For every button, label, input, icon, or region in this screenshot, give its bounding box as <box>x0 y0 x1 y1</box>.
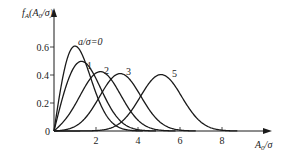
x-axis-arrow-icon <box>263 128 272 134</box>
x-tick-label: 2 <box>94 135 99 146</box>
curves <box>54 46 237 131</box>
origin-label: 0 <box>45 126 50 137</box>
x-tick-label: 8 <box>220 135 225 146</box>
curve-a-0 <box>54 46 143 131</box>
y-tick-label: 0.4 <box>37 70 50 81</box>
curve-label-2: 2 <box>104 65 109 76</box>
y-axis-label: fA(A0/σ) <box>22 7 54 20</box>
curve-label-5: 5 <box>172 68 177 79</box>
rice-distribution-chart: 246800.20.40.6 fA(A0/σ)A0/σa/σ=01235 <box>0 0 289 154</box>
y-tick-label: 0.6 <box>37 42 50 53</box>
curve-label-1: 1 <box>87 60 92 71</box>
curve-a-2 <box>54 72 176 131</box>
x-tick-label: 4 <box>136 135 141 146</box>
x-axis-label: A0/σ <box>254 139 273 152</box>
x-tick-label: 6 <box>178 135 183 146</box>
y-tick-label: 0.2 <box>37 98 50 109</box>
curve-label-0: a/σ=0 <box>78 36 102 47</box>
curve-label-3: 3 <box>126 66 131 77</box>
